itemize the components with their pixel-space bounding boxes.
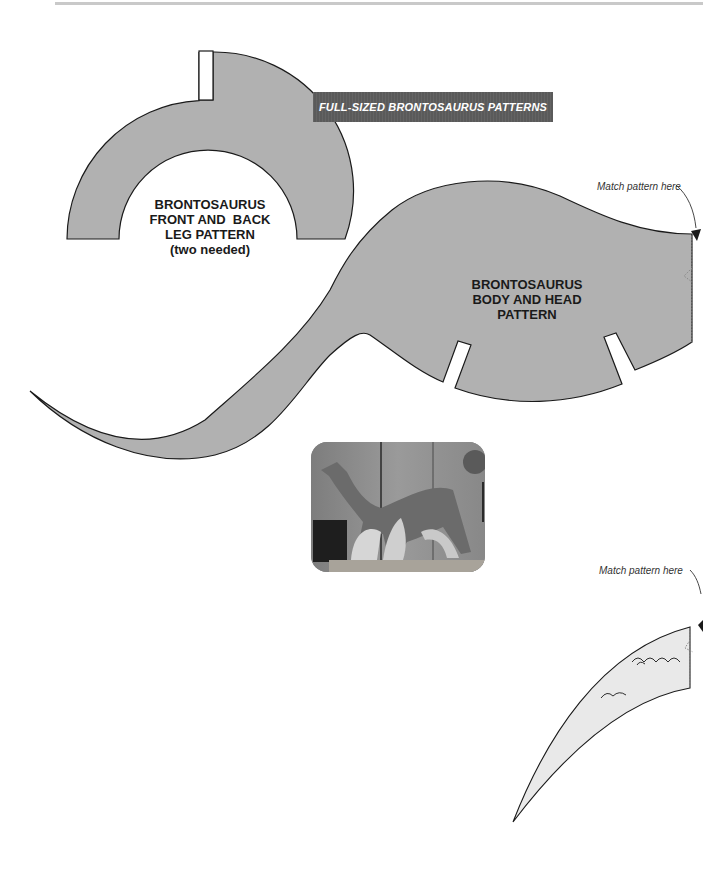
body-label-line-1: BRONTOSAURUS: [452, 277, 602, 292]
leg-pattern-label: BRONTOSAURUS FRONT AND BACK LEG PATTERN …: [134, 197, 286, 257]
body-label-line-3: PATTERN: [452, 307, 602, 322]
leg-label-note: (two needed): [134, 242, 286, 257]
pattern-artwork: [0, 0, 703, 872]
finished-project-photo: [311, 442, 485, 572]
leg-slot: [199, 51, 213, 100]
match-arrow-2: [690, 570, 701, 594]
match-arrow-2-head: [698, 620, 703, 632]
body-pattern-label: BRONTOSAURUS BODY AND HEAD PATTERN: [452, 277, 602, 322]
banner-title: FULL-SIZED BRONTOSAURUS PATTERNS: [319, 101, 547, 113]
leg-label-line-2: FRONT AND BACK: [134, 212, 286, 227]
photo-illustration: [311, 442, 485, 572]
patterns-banner: FULL-SIZED BRONTOSAURUS PATTERNS: [313, 92, 553, 122]
body-label-line-2: BODY AND HEAD: [452, 292, 602, 307]
neck-piece-shape: [513, 627, 690, 822]
match-pattern-label-body: Match pattern here: [597, 181, 681, 192]
match-pattern-label-neck: Match pattern here: [599, 565, 683, 576]
leg-label-line-3: LEG PATTERN: [134, 227, 286, 242]
leg-label-line-1: BRONTOSAURUS: [134, 197, 286, 212]
